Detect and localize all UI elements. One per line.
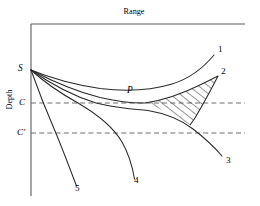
ray-label-3: 3 bbox=[226, 155, 231, 165]
ray-label-5: 5 bbox=[75, 183, 80, 193]
ray-label-1: 1 bbox=[218, 44, 223, 54]
ray-label-4: 4 bbox=[134, 175, 139, 185]
ray-path-1 bbox=[31, 55, 214, 90]
depth-level-label-c-prime: C′ bbox=[17, 127, 25, 137]
ray-diagram-canvas bbox=[0, 0, 260, 206]
source-point-label-s: S bbox=[18, 63, 23, 73]
depth-axis-label: Depth bbox=[5, 77, 14, 123]
depth-level-label-c: C bbox=[19, 97, 25, 107]
range-axis-label: Range bbox=[104, 7, 164, 16]
ray-diagram-figure: Range Depth S P C C′ 1 2 3 4 5 bbox=[0, 0, 260, 206]
ray-path-4 bbox=[31, 70, 135, 179]
point-label-p: P bbox=[127, 85, 133, 95]
ray-label-2: 2 bbox=[221, 66, 226, 76]
